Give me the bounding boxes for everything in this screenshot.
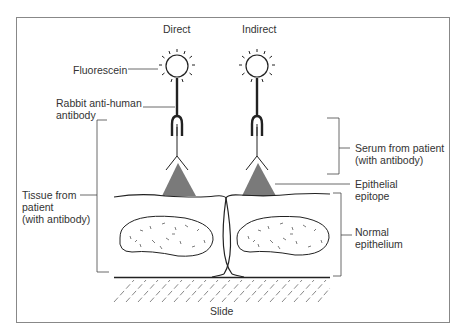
nucleus-right [237, 216, 329, 255]
column-header-indirect: Indirect [242, 23, 276, 35]
nucleus-left [120, 216, 213, 256]
label-tissue-line2: patient [22, 201, 54, 213]
label-serum-line1: Serum from patient [355, 142, 444, 154]
label-epitope-line1: Epithelial [355, 178, 398, 190]
indirect-patient-antibody [246, 127, 268, 170]
label-epithelium-line1: Normal [355, 226, 389, 238]
direct-fluorescein [159, 49, 195, 82]
label-fluorescein: Fluorescein [73, 64, 127, 76]
nucleus-speckles [130, 223, 322, 249]
label-epithelium-line2: epithelium [355, 238, 403, 250]
slide-hatching [114, 280, 330, 302]
label-rabbit-antibody-line1: Rabbit anti-human [56, 97, 142, 109]
label-rabbit-antibody-line2: antibody [56, 109, 96, 121]
diagram-canvas [0, 0, 462, 332]
label-tissue-line3: (with antibody) [22, 213, 90, 225]
epithelial-cells [114, 194, 330, 278]
label-serum-line2: (with antibody) [355, 154, 423, 166]
column-header-direct: Direct [163, 23, 190, 35]
label-tissue-line1: Tissue from [22, 189, 76, 201]
label-slide: Slide [210, 305, 233, 317]
direct-patient-antibody [166, 127, 188, 170]
indirect-fluorescein [239, 49, 275, 82]
label-epitope-line2: epitope [355, 190, 389, 202]
